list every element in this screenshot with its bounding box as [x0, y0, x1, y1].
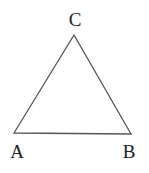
vertex-label-b: B	[123, 141, 136, 162]
triangle-abc	[14, 35, 131, 134]
vertex-label-c: C	[69, 9, 82, 30]
triangle-diagram: C A B	[0, 0, 149, 173]
vertex-label-a: A	[10, 141, 24, 162]
